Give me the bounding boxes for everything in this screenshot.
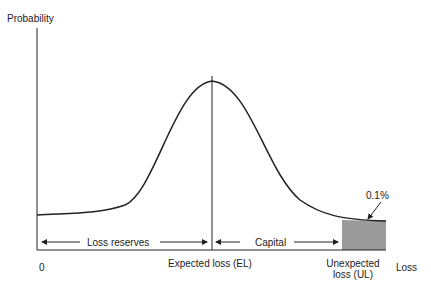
capital-label: Capital	[253, 237, 288, 248]
tail-probability-label: 0.1%	[366, 190, 389, 201]
x-axis-label: Loss	[396, 262, 417, 273]
tail-pointer-arrow	[368, 202, 381, 219]
tail-area	[342, 220, 386, 250]
expected-loss-label: Expected loss (EL)	[168, 258, 252, 269]
loss-distribution-chart	[0, 0, 431, 291]
origin-label: 0	[39, 262, 45, 273]
y-axis-label: Probability	[7, 13, 54, 24]
loss-reserves-label: Loss reserves	[85, 237, 151, 248]
unexpected-loss-label: Unexpected loss (UL)	[308, 258, 398, 280]
